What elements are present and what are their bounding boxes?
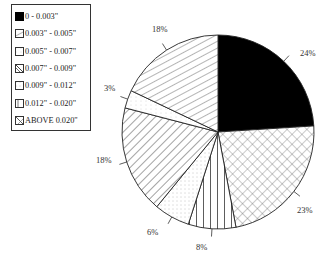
legend-item-3: 0.007" - 0.009" (15, 60, 90, 77)
light-dots-swatch-icon (15, 47, 24, 56)
label-3: 3% (104, 83, 115, 93)
legend-item-4: 0.009" - 0.012" (15, 77, 90, 94)
leader-line (284, 56, 289, 62)
label-8: 8% (196, 242, 207, 252)
legend-item-2: 0.005" - 0.007" (15, 43, 90, 60)
label-6: 6% (147, 227, 158, 237)
solid-black-swatch-icon (15, 12, 24, 21)
legend-label: 0.003" - 0.005" (25, 29, 76, 38)
crosshatch-swatch-icon (15, 116, 24, 125)
legend-label: 0.012" - 0.020" (25, 99, 76, 108)
legend-label: ABOVE 0.020" (25, 116, 78, 125)
legend-item-1: 0.003" - 0.005" (15, 25, 90, 42)
legend-item-6: ABOVE 0.020" (15, 112, 90, 129)
legend-item-5: 0.012" - 0.020" (15, 94, 90, 111)
leader-line (168, 217, 172, 224)
label-18-top: 18% (152, 24, 168, 34)
leader-line (162, 44, 166, 51)
label-24: 24% (300, 48, 316, 58)
legend: 0 - 0.003" 0.003" - 0.005" 0.005" - 0.00… (11, 4, 91, 131)
forward-diagonal-swatch-icon (15, 29, 24, 38)
legend-label: 0.009" - 0.012" (25, 81, 76, 90)
leader-line (119, 162, 126, 164)
label-18-left: 18% (96, 155, 112, 165)
leader-line (120, 97, 127, 100)
legend-label: 0 - 0.003" (25, 12, 58, 21)
back-diagonal-swatch-icon (15, 64, 24, 73)
leader-line (294, 191, 300, 196)
legend-item-0: 0 - 0.003" (15, 8, 90, 25)
dots-swatch-icon (15, 81, 24, 90)
legend-label: 0.005" - 0.007" (25, 47, 76, 56)
vertical-lines-swatch-icon (15, 99, 24, 108)
legend-label: 0.007" - 0.009" (25, 64, 76, 73)
label-23: 23% (297, 205, 313, 215)
